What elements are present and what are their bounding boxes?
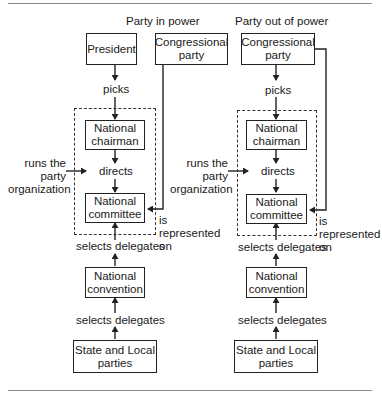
right-national-chairman-box: National chairman (246, 120, 307, 150)
left-selects-delegates-label-2: selects delegates (76, 314, 165, 327)
left-state-local-parties-box: State and Local parties (73, 340, 157, 373)
right-national-convention-box: National convention (246, 267, 307, 298)
right-picks-label: picks (265, 84, 291, 97)
left-panel-title: Party in power (126, 15, 200, 27)
left-president-box: President (86, 33, 137, 65)
left-picks-label: picks (103, 83, 129, 96)
right-national-committee-box: National committee (246, 194, 307, 224)
left-national-committee-box: National committee (85, 193, 145, 223)
right-state-local-parties-box: State and Local parties (234, 340, 318, 373)
right-panel-title: Party out of power (235, 15, 328, 27)
left-national-convention-box: National convention (85, 267, 145, 298)
left-congressional-party-box: Congressional party (155, 33, 228, 65)
left-selects-delegates-label-1: selects delegates (76, 240, 165, 253)
left-runs-organization-label: runs the party organization (8, 157, 66, 196)
left-national-chairman-box: National chairman (85, 120, 145, 150)
left-represented-label: is represented on (159, 214, 220, 253)
right-runs-organization-label: runs the party organization (170, 157, 228, 196)
right-selects-delegates-label-1: selects delegates (238, 241, 327, 254)
left-directs-label: directs (99, 165, 133, 178)
right-directs-label: directs (261, 165, 295, 178)
right-selects-delegates-label-2: selects delegates (238, 314, 327, 327)
right-represented-label: is represented on (319, 215, 380, 254)
right-congressional-party-box: Congressional party (241, 33, 315, 65)
